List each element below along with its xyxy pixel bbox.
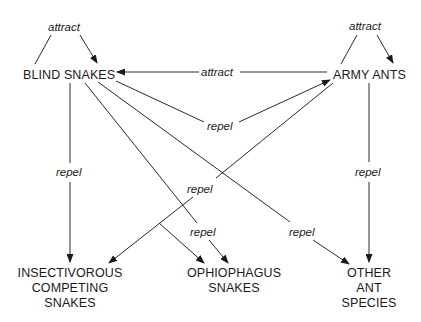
- edge-label-attract: attract: [48, 21, 81, 33]
- edge-army-to-other-ants-repel: repel: [355, 83, 381, 262]
- edge-label-repel: repel: [289, 226, 315, 238]
- node-line: INSECTIVOROUS: [18, 266, 123, 280]
- edge-label-attract: attract: [201, 66, 234, 78]
- edge-label-repel: repel: [190, 226, 216, 238]
- node-ophiophagus-snakes: OPHIOPHAGUS SNAKES: [187, 266, 281, 295]
- edge-blind-to-ophiophagus-repel: repel: [85, 83, 228, 263]
- node-line: COMPETING: [32, 281, 109, 295]
- node-line: OTHER: [347, 266, 391, 280]
- node-line: SNAKES: [44, 296, 95, 310]
- edge-blind-self-attract: attract: [35, 21, 97, 64]
- edge-label-repel: repel: [355, 166, 381, 178]
- node-army-ants: ARMY ANTS: [333, 68, 406, 82]
- edge-army-to-blind-attract: attract: [117, 66, 327, 78]
- node-other-ant-species: OTHER ANT SPECIES: [342, 266, 397, 310]
- diagram-svg: attract attract attract repel repel: [0, 0, 421, 322]
- node-blind-snakes: BLIND SNAKES: [23, 68, 115, 82]
- edge-blind-to-insectivorous-repel: repel: [56, 83, 82, 262]
- node-insectivorous-competing-snakes: INSECTIVOROUS COMPETING SNAKES: [18, 266, 123, 310]
- edge-label-repel: repel: [187, 183, 213, 195]
- edge-army-self-attract: attract: [341, 20, 393, 64]
- node-line: ANT: [356, 281, 382, 295]
- interaction-diagram: attract attract attract repel repel: [0, 0, 421, 322]
- node-line: SPECIES: [342, 296, 397, 310]
- node-line: OPHIOPHAGUS: [187, 266, 281, 280]
- edge-label-repel: repel: [56, 166, 82, 178]
- node-line: SNAKES: [208, 281, 259, 295]
- edge-blind-to-other-ants-repel: repel: [98, 82, 349, 264]
- edge-label-attract: attract: [349, 20, 382, 32]
- edge-blind-to-army-repel: repel: [116, 80, 330, 132]
- edge-label-repel: repel: [207, 120, 233, 132]
